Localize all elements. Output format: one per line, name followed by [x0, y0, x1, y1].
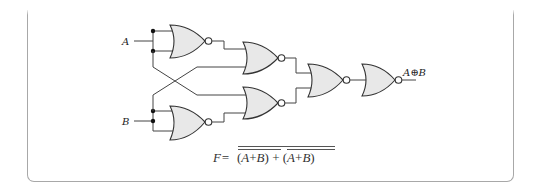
input-label-b: B [121, 116, 129, 127]
wire-g4-to-g3 [212, 113, 247, 122]
inverter-bubble [205, 38, 212, 45]
nor-gate-3 [243, 87, 278, 119]
nor-gate-5 [308, 64, 343, 97]
wire-g3-to-g5 [285, 88, 312, 103]
boolean-formula: F= (A+B) + (A+B) [213, 150, 315, 166]
wire-a-to-g3 [153, 51, 247, 95]
inverter-bubble [278, 100, 285, 107]
paren: ) [310, 150, 314, 165]
inverter-bubble [278, 55, 285, 62]
overline-term1 [238, 149, 281, 150]
nor-gate-1 [170, 25, 205, 58]
junction-dot [151, 29, 155, 33]
inverter-bubble [205, 119, 212, 126]
nor-gate-4 [170, 106, 205, 140]
nor-gate-6 [362, 64, 395, 96]
input-label-a: A [121, 36, 129, 47]
overline-term2 [288, 149, 335, 150]
inverter-bubble [395, 77, 402, 84]
output-label: A⊕B [402, 67, 426, 78]
inverter-bubble [343, 77, 350, 84]
wire-g1-to-g2 [212, 41, 247, 49]
junction-dot [151, 119, 155, 123]
var-b-bar: B [257, 150, 265, 165]
formula-lhs: F= [213, 150, 230, 165]
plus: + [249, 150, 256, 165]
overline-outer [238, 146, 335, 147]
var-a-bar: A [287, 150, 295, 165]
wire-g2-to-g5 [285, 58, 312, 73]
plus: + [272, 150, 279, 165]
paren: ) [265, 150, 269, 165]
wire-b-to-g2 [153, 67, 247, 111]
nor-gate-2 [243, 42, 278, 74]
